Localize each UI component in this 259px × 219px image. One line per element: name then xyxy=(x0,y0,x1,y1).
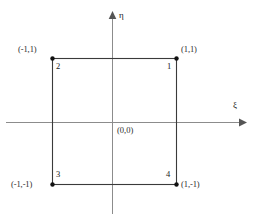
element-boundary xyxy=(53,59,177,185)
node-number-1: 1 xyxy=(167,62,171,71)
element-coordinate-diagram: η ξ (0,0) (-1,1) (1,1) (-1,-1) (1,-1) 2 … xyxy=(0,0,259,219)
diagram-canvas xyxy=(0,0,259,219)
eta-axis-label: η xyxy=(119,11,124,20)
node-coord-label-3: (-1,-1) xyxy=(11,180,32,189)
node-coord-label-1: (1,1) xyxy=(181,45,197,54)
eta-axis xyxy=(109,11,117,214)
node-number-2: 2 xyxy=(56,62,60,71)
node-coord-label-2: (-1,1) xyxy=(18,45,37,54)
node-number-3: 3 xyxy=(56,170,60,179)
node-dot-2 xyxy=(50,56,54,60)
origin-label: (0,0) xyxy=(117,126,133,135)
eta-axis-arrowhead xyxy=(109,11,117,19)
node-coord-label-4: (1,-1) xyxy=(181,180,200,189)
node-dot-4 xyxy=(174,182,178,186)
node-dot-3 xyxy=(50,182,54,186)
node-number-4: 4 xyxy=(166,170,170,179)
node-dot-1 xyxy=(174,56,178,60)
xi-axis-arrowhead xyxy=(239,119,247,127)
xi-axis-label: ξ xyxy=(233,101,237,110)
